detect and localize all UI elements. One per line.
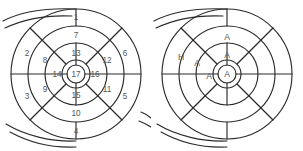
cell-label-middle-top: A: [224, 32, 230, 42]
divider-ne: [237, 28, 273, 64]
tail-strokes-upper-left: [154, 9, 227, 28]
cell-label-core: 17: [71, 70, 81, 79]
cell-label-middle-upper-left: 8: [43, 56, 48, 65]
cell-label-outer-lower-right: 5: [123, 92, 128, 101]
cell-label-outer-upper-left: H: [178, 52, 184, 62]
cell-label-middle-upper-left: A: [194, 58, 200, 68]
cell-label-outer-upper-left: 2: [25, 49, 30, 58]
divider-se: [237, 84, 273, 120]
cell-label-middle-lower-right: 11: [103, 85, 112, 94]
lettered-ring-diagram: HAAAAA: [151, 0, 303, 151]
cell-label-middle-top: 7: [74, 31, 79, 40]
cell-label-outer-upper-right: 6: [123, 49, 128, 58]
tail-strokes-lower-right: [139, 112, 151, 127]
cell-label-inner-top: A: [224, 50, 230, 60]
cell-label-inner-left: 14: [52, 70, 62, 79]
tail-strokes-upper-left: [3, 9, 76, 28]
cell-label-outer-bottom: 4: [74, 127, 79, 136]
cell-label-middle-upper-right: 12: [102, 56, 112, 65]
figure-root: 1234567891011121314151617: [0, 0, 303, 151]
divider-sw: [181, 84, 217, 120]
cell-label-outer-lower-left: 3: [25, 92, 30, 101]
tail-strokes-lower-left: [6, 124, 76, 147]
divider-sw: [30, 84, 66, 120]
numbered-ring-diagram: 1234567891011121314151617: [0, 0, 151, 151]
cell-label-outer-top: 1: [74, 13, 79, 22]
cell-label-middle-lower-left: 9: [43, 85, 48, 94]
cell-label-inner-right: 16: [90, 70, 100, 79]
cell-label-inner-left: A: [206, 71, 212, 81]
cell-label-middle-bottom: 10: [71, 109, 81, 118]
cell-label-core: A: [224, 69, 230, 79]
cell-label-inner-bottom: 15: [71, 91, 81, 100]
divider-nw: [30, 28, 66, 64]
cell-label-inner-top: 13: [71, 49, 81, 58]
tail-strokes-lower-left: [157, 124, 227, 147]
